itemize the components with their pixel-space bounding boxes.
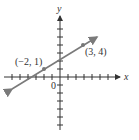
coordinate-plane: y x 0 (−2, 1) (3, 4) (0, 0, 139, 140)
x-axis (4, 74, 120, 80)
point-neg2-1 (42, 67, 46, 71)
point-label-3-4: (3, 4) (85, 46, 107, 58)
x-axis-label: x (123, 71, 129, 82)
point-label-neg2-1: (−2, 1) (15, 56, 42, 68)
origin-label: 0 (51, 80, 56, 91)
y-axis (57, 16, 63, 130)
y-axis-label: y (56, 3, 62, 14)
